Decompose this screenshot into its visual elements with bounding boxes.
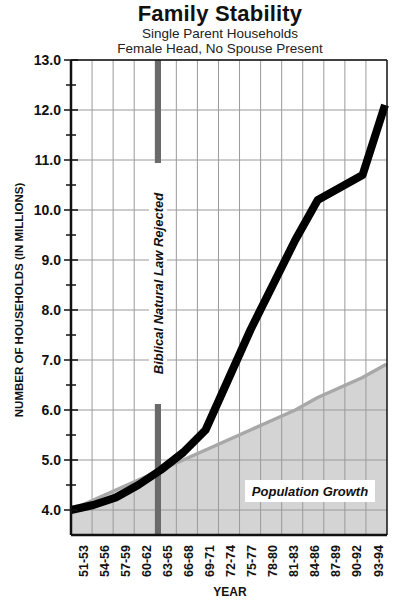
x-axis-ticks: 51-5354-5657-5960-6263-6566-6869-7172-74… — [77, 545, 386, 577]
y-tick-label: 4.0 — [42, 502, 62, 518]
x-tick-label: 54-56 — [98, 545, 112, 577]
y-tick-label: 8.0 — [42, 302, 62, 318]
y-tick-label: 13.0 — [34, 52, 61, 68]
x-tick-label: 90-92 — [350, 545, 364, 577]
x-tick-label: 78-80 — [266, 545, 280, 577]
x-tick-label: 66-68 — [182, 545, 196, 577]
x-tick-label: 51-53 — [77, 545, 91, 577]
y-tick-label: 10.0 — [34, 202, 61, 218]
y-axis-label: NUMBER OF HOUSEHOLDS (IN MILLIONS) — [13, 183, 25, 417]
y-tick-label: 12.0 — [34, 102, 61, 118]
x-tick-label: 57-59 — [119, 545, 133, 577]
x-tick-label: 87-89 — [329, 545, 343, 577]
y-tick-label: 6.0 — [42, 402, 62, 418]
line-chart: Biblical Natural Law RejectedPopulation … — [0, 0, 400, 608]
x-axis-label: YEAR — [213, 585, 246, 599]
x-tick-label: 63-65 — [161, 545, 175, 577]
x-tick-label: 60-62 — [140, 545, 154, 577]
x-tick-label: 84-86 — [308, 545, 322, 577]
y-tick-label: 5.0 — [42, 452, 62, 468]
annotation-bar-top — [155, 60, 161, 163]
population-growth-label: Population Growth — [252, 484, 368, 499]
x-tick-label: 75-77 — [245, 545, 259, 577]
x-tick-label: 93-94 — [372, 545, 386, 577]
y-tick-label: 9.0 — [42, 252, 62, 268]
y-tick-label: 11.0 — [35, 152, 62, 168]
x-tick-label: 72-74 — [224, 545, 238, 577]
annotation-label: Biblical Natural Law Rejected — [151, 192, 166, 374]
x-tick-label: 81-83 — [287, 545, 301, 577]
y-tick-label: 7.0 — [42, 352, 62, 368]
x-tick-label: 69-71 — [203, 545, 217, 577]
